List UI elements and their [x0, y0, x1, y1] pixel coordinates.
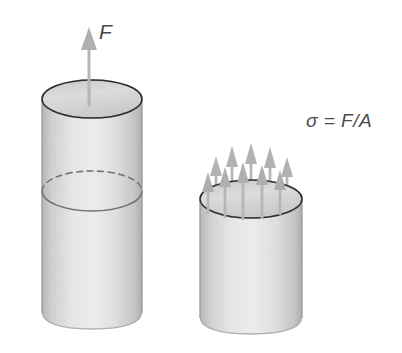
stress-formula-label: σ = F/A [306, 110, 372, 132]
left-cylinder-top-face [42, 80, 142, 118]
right-cylinder-group [200, 143, 302, 334]
figure-canvas [0, 0, 402, 353]
force-arrow-head [81, 27, 97, 50]
left-cylinder-body [42, 99, 142, 329]
right-cylinder-cross-section-face [200, 180, 302, 218]
right-cylinder-body [200, 199, 302, 334]
stress-diagram-figure: F σ = F/A [0, 0, 402, 353]
left-cylinder-group [42, 27, 142, 329]
force-label: F [99, 20, 112, 44]
